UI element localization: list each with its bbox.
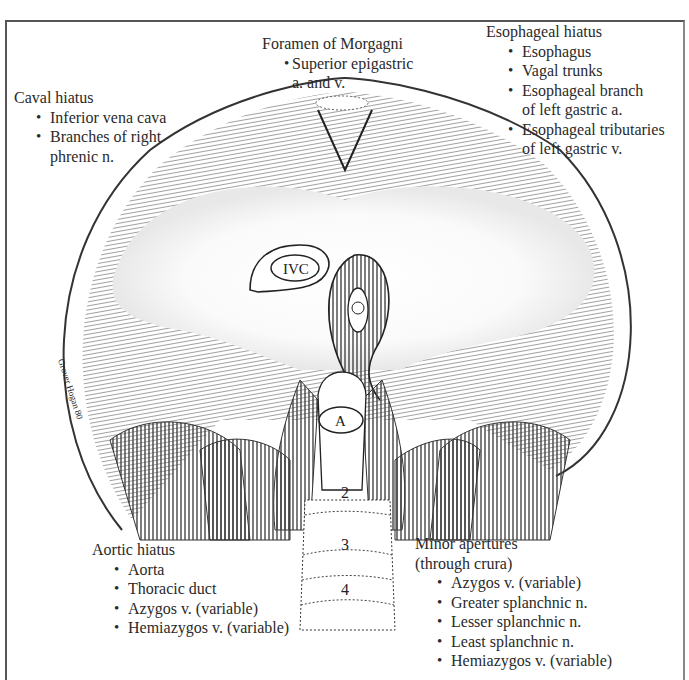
vertebra-4-label: 4 bbox=[341, 581, 349, 598]
list-item: Esophageal branchof left gastric a. bbox=[486, 81, 665, 120]
list-item: Azygos v. (variable) bbox=[415, 573, 612, 593]
list-item: Branches of rightphrenic n. bbox=[14, 127, 166, 166]
vertebra-2-label: 2 bbox=[341, 484, 349, 501]
caval-hiatus-title: Caval hiatus bbox=[14, 88, 166, 108]
list-item: Greater splanchnic n. bbox=[415, 593, 612, 613]
list-item: Superior epigastrica. and v. bbox=[262, 54, 413, 93]
list-item: Azygos v. (variable) bbox=[92, 599, 289, 619]
list-item: Inferior vena cava bbox=[14, 108, 166, 128]
foramen-morgagni-title: Foramen of Morgagni bbox=[262, 34, 413, 54]
list-item: Hemiazygos v. (variable) bbox=[415, 651, 612, 671]
list-item: Hemiazygos v. (variable) bbox=[92, 618, 289, 638]
ivc-label: IVC bbox=[283, 261, 309, 277]
minor-apertures-title: Minor apertures bbox=[415, 534, 612, 554]
list-item: Thoracic duct bbox=[92, 579, 289, 599]
list-item: Vagal trunks bbox=[486, 61, 665, 81]
foramen-morgagni-opening bbox=[316, 96, 368, 110]
list-item: Aorta bbox=[92, 560, 289, 580]
aorta-label: A bbox=[335, 413, 346, 429]
artist-signature: Grover Hogan 80 bbox=[56, 358, 85, 421]
minor-apertures-subtitle: (through crura) bbox=[415, 554, 612, 574]
esophagus-opening bbox=[348, 288, 368, 332]
esophageal-hiatus-label: Esophageal hiatus Esophagus Vagal trunks… bbox=[486, 22, 665, 159]
list-item: Esophagus bbox=[486, 42, 665, 62]
list-item: Lesser splanchnic n. bbox=[415, 612, 612, 632]
vertebral-column bbox=[300, 500, 395, 630]
right-quadratus-arch bbox=[200, 439, 290, 540]
esophageal-hiatus-title: Esophageal hiatus bbox=[486, 22, 665, 42]
left-quadratus-arch bbox=[395, 439, 480, 540]
minor-apertures-label: Minor apertures (through crura) Azygos v… bbox=[415, 534, 612, 671]
aortic-hiatus-title: Aortic hiatus bbox=[92, 540, 289, 560]
foramen-morgagni-label: Foramen of Morgagni Superior epigastrica… bbox=[262, 34, 413, 93]
aortic-hiatus-label: Aortic hiatus Aorta Thoracic duct Azygos… bbox=[92, 540, 289, 638]
list-item: Least splanchnic n. bbox=[415, 632, 612, 652]
caval-hiatus-label: Caval hiatus Inferior vena cava Branches… bbox=[14, 88, 166, 166]
vertebra-3-label: 3 bbox=[341, 536, 349, 553]
list-item: Esophageal tributariesof left gastric v. bbox=[486, 120, 665, 159]
